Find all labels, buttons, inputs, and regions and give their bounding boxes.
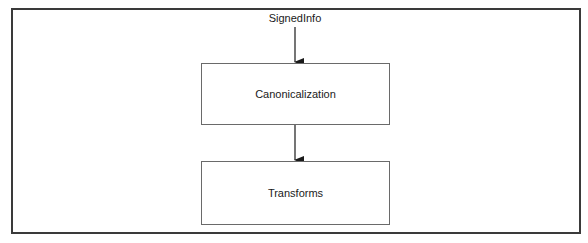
transforms-box: Transforms (201, 161, 390, 225)
canonicalization-box: Canonicalization (201, 63, 390, 125)
transforms-label: Transforms (268, 187, 323, 199)
canonicalization-label: Canonicalization (255, 88, 336, 100)
